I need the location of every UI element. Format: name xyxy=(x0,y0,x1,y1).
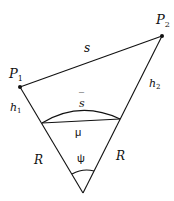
label-psi: ψ xyxy=(77,152,85,164)
label-h2: h2 xyxy=(149,77,161,91)
angle-psi-arc xyxy=(72,170,94,174)
label-r-right: R xyxy=(115,149,125,163)
label-s-bar-accent: ¯ xyxy=(78,91,85,101)
line-left-radius xyxy=(20,87,83,193)
label-s: s xyxy=(84,41,90,55)
line-mu xyxy=(42,119,120,123)
point-p2 xyxy=(160,34,164,38)
label-mu: μ xyxy=(75,126,81,138)
label-p1: P1 xyxy=(8,66,23,83)
label-p2: P2 xyxy=(155,12,170,29)
geometry-diagram: P1 P2 s h1 h2 s ¯ μ R R ψ xyxy=(0,0,174,201)
label-r-left: R xyxy=(33,153,43,167)
point-p1 xyxy=(18,85,22,89)
label-h1: h1 xyxy=(10,101,22,115)
